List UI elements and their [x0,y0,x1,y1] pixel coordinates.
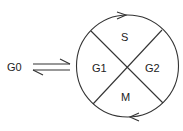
label-m: M [121,91,130,103]
label-g1: G1 [92,62,107,74]
equilibrium-arrows-icon [33,59,70,75]
cell-cycle-diagram: G0 S G2 M G1 [0,0,183,131]
label-s: S [121,31,128,43]
label-g0: G0 [7,61,22,73]
label-g2: G2 [145,62,160,74]
